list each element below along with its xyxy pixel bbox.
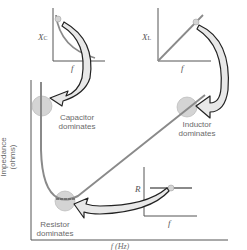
resistor-inset-ylabel: R [135, 184, 141, 194]
resistor-dominates-label: Resistor dominates [30, 220, 80, 238]
impedance-diagram: XC f XL f R f Capacitor dominates Induct… [0, 0, 247, 250]
resistor-highlight [55, 191, 75, 211]
inductor-inset [158, 8, 211, 61]
capacitor-inset-ylabel: XC [38, 32, 48, 42]
inductor-inset-xlabel: f [181, 63, 184, 73]
capacitor-dominates-label: Capacitor dominates [52, 113, 102, 131]
inductor-dominates-label: Inductor dominates [172, 120, 222, 138]
resistor-inset-xlabel: f [168, 218, 171, 228]
inductor-inset-ylabel: XL [142, 32, 151, 42]
main-x-axis-label: f (Hz) [100, 242, 140, 250]
resistor-inset [144, 167, 197, 216]
capacitor-inset-xlabel: f [71, 63, 74, 73]
inductor-arrow [196, 25, 228, 118]
resistor-arrow [74, 188, 169, 218]
main-y-axis-label: Impedance (ohms) [0, 137, 17, 177]
